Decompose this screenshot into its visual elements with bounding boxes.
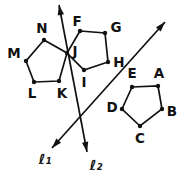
- vertex-B: [160, 107, 164, 111]
- vertex-K: [57, 79, 61, 83]
- vertex-label-I: I: [81, 74, 86, 90]
- vertex-label-D: D: [106, 99, 117, 115]
- vertex-label-N: N: [36, 20, 47, 36]
- vertex-label-H: H: [113, 54, 124, 70]
- vertex-H: [106, 60, 110, 64]
- line-l1-label: ℓ₁: [38, 151, 52, 167]
- figure-canvas: ℓ₁ℓ₂NJKLMFGHIEABCD: [0, 0, 185, 176]
- vertex-label-L: L: [28, 85, 37, 101]
- pentagon-ABCDE-outline: [122, 86, 162, 126]
- vertex-label-E: E: [127, 65, 136, 81]
- pentagon-MNJKL: NJKLM: [7, 20, 77, 101]
- vertex-E: [130, 85, 134, 89]
- vertex-D: [120, 107, 124, 111]
- vertex-F: [78, 29, 82, 33]
- pentagon-ABCDE: EABCD: [106, 65, 177, 146]
- vertex-label-B: B: [167, 103, 177, 119]
- vertex-G: [103, 31, 107, 35]
- vertex-A: [156, 84, 160, 88]
- vertex-label-A: A: [154, 65, 165, 81]
- vertex-I: [82, 68, 86, 72]
- vertex-M: [24, 59, 28, 63]
- vertex-label-C: C: [135, 130, 145, 146]
- vertex-C: [138, 124, 142, 128]
- vertex-N: [42, 38, 46, 42]
- line-l1: [52, 22, 165, 148]
- vertex-label-K: K: [57, 85, 68, 101]
- vertex-L: [32, 80, 36, 84]
- vertex-label-M: M: [7, 45, 20, 61]
- geometry-figure: ℓ₁ℓ₂NJKLMFGHIEABCD: [0, 0, 185, 176]
- pentagon-MNJKL-outline: [26, 40, 67, 82]
- vertex-label-F: F: [72, 13, 81, 29]
- line-l2-label: ℓ₂: [89, 157, 104, 173]
- vertex-label-G: G: [110, 19, 121, 35]
